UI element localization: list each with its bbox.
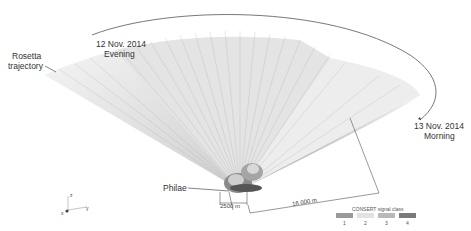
trajectory-label-line2: trajectory [8,61,43,71]
trajectory-label-line1: Rosetta [12,51,41,61]
axis-x-label: x [61,208,64,218]
legend-swatch-3 [378,213,395,218]
axis-origin-icon [65,209,68,212]
philae-label: Philae [163,183,187,193]
legend-swatch-4 [399,213,416,218]
trajectory-arrow [418,117,421,120]
evening-date-label: 12 Nov. 2014 [96,39,146,49]
morning-time-label: Morning [424,131,455,141]
evening-time-label: Evening [104,49,135,59]
axis-y-label: y [86,203,89,213]
scale-2500-label: 2500 m [220,201,240,211]
legend-label-1: 1 [336,220,353,226]
legend-label-4: 4 [399,220,416,226]
legend-title: CONSERT signal class [352,206,404,212]
philae-pointer [188,188,229,191]
trajectory-pointer [45,66,56,72]
legend-label-3: 3 [378,220,395,226]
legend-swatch-2 [357,213,374,218]
morning-date-label: 13 Nov. 2014 [414,121,464,131]
legend-swatch-1 [336,213,353,218]
legend-label-2: 2 [357,220,374,226]
axis-z-label: z [70,190,73,200]
